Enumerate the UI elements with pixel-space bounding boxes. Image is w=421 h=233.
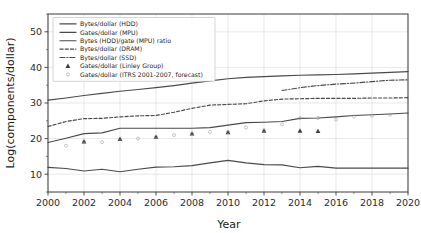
x-tick-label: 2008 — [180, 197, 204, 208]
marker-circle — [245, 126, 248, 129]
legend-label: Bytes (HDD)/gate (MPU) ratio — [80, 37, 171, 45]
marker-circle — [209, 130, 212, 133]
series-line-4 — [282, 80, 408, 91]
y-tick-label: 30 — [30, 97, 42, 108]
y-tick-label: 40 — [30, 62, 42, 73]
legend-label: Bytes/dollar (SSD) — [80, 54, 136, 62]
x-tick-label: 2012 — [252, 197, 276, 208]
y-tick-label: 20 — [30, 133, 42, 144]
x-axis-label: Year — [216, 218, 241, 231]
x-tick-label: 2002 — [72, 197, 96, 208]
marker-circle — [281, 123, 284, 126]
legend-label: Gates/dollar (Linley Group) — [80, 62, 164, 70]
y-tick-label: 50 — [30, 26, 42, 37]
chart-canvas: 2000200220042006200820102012201420162018… — [0, 0, 421, 233]
marker-circle — [65, 144, 68, 147]
x-tick-label: 2004 — [108, 197, 132, 208]
legend-label: Gates/dollar (MPU) — [80, 29, 138, 36]
legend-label: Bytes/dollar (HDD) — [80, 20, 138, 28]
x-tick-label: 2006 — [144, 197, 168, 208]
legend-label: Gates/dollar (ITRS 2001-2007, forecast) — [80, 71, 203, 78]
y-tick-label: 10 — [30, 169, 42, 180]
legend: Bytes/dollar (HDD)Gates/dollar (MPU)Byte… — [53, 18, 215, 82]
x-tick-label: 2018 — [360, 197, 384, 208]
marker-circle — [101, 141, 104, 144]
legend-label: Bytes/dollar (DRAM) — [80, 45, 142, 53]
chart-figure: 2000200220042006200820102012201420162018… — [0, 0, 421, 233]
marker-circle — [173, 134, 176, 137]
x-tick-label: 2000 — [36, 197, 60, 208]
x-tick-label: 2020 — [396, 197, 420, 208]
x-tick-label: 2016 — [324, 197, 348, 208]
y-axis-label: Log(components/dollar) — [4, 38, 17, 169]
x-tick-label: 2010 — [216, 197, 240, 208]
marker-triangle — [298, 128, 303, 132]
marker-triangle — [316, 129, 321, 133]
x-tick-label: 2014 — [288, 197, 312, 208]
